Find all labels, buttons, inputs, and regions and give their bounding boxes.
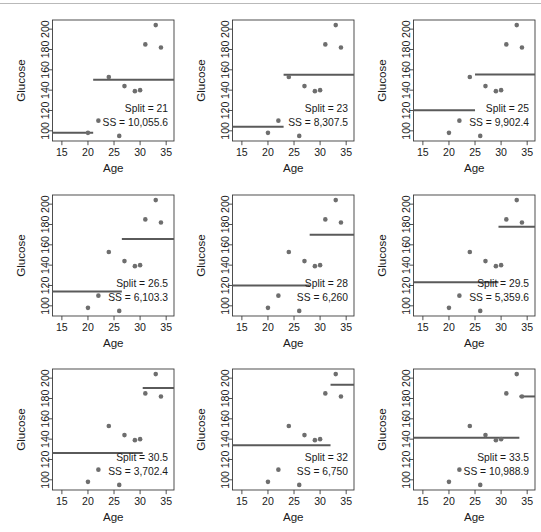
ss-annotation: SS = 9,902.4 (469, 117, 529, 128)
x-axis-title: Age (464, 162, 485, 174)
data-point (478, 134, 483, 139)
x-axis-title: Age (464, 337, 485, 349)
x-tick-label-35: 35 (341, 321, 353, 333)
x-tick-label-30: 30 (134, 146, 146, 158)
data-point (117, 134, 122, 139)
data-point (153, 372, 158, 377)
data-point (323, 217, 328, 222)
data-point (143, 391, 148, 396)
data-point (302, 258, 307, 263)
data-point (313, 263, 318, 268)
data-point (504, 217, 509, 222)
x-axis-title: Age (103, 162, 124, 174)
y-axis-title: Glucose (376, 408, 388, 450)
y-tick-label-200: 200 (400, 20, 412, 38)
data-point (86, 131, 91, 136)
y-tick-label-180: 180 (219, 41, 231, 59)
data-point (457, 293, 462, 298)
y-tick-label-100: 100 (400, 122, 412, 140)
ss-annotation: SS = 6,750 (297, 466, 348, 477)
y-tick-label-120: 120 (400, 276, 412, 294)
data-point (446, 131, 451, 136)
data-point (266, 480, 271, 485)
y-tick-label-180: 180 (400, 215, 412, 233)
y-tick-label-100: 100 (400, 296, 412, 314)
split-annotation: Split = 29.5 (477, 278, 529, 289)
y-tick-label-140: 140 (400, 81, 412, 99)
y-tick-label-200: 200 (39, 20, 51, 38)
scatter-panel-6: 1520253035100120140160180200AgeGlucoseSp… (361, 183, 541, 358)
x-tick-label-25: 25 (469, 496, 481, 508)
x-tick-label-20: 20 (443, 146, 455, 158)
x-tick-label-15: 15 (56, 321, 68, 333)
y-tick-label-160: 160 (39, 235, 51, 253)
y-axis-title: Glucose (16, 408, 28, 450)
y-tick-label-120: 120 (39, 451, 51, 469)
data-point (117, 483, 122, 488)
data-point (446, 480, 451, 485)
data-point (276, 468, 281, 473)
data-point (297, 308, 302, 313)
y-tick-label-120: 120 (400, 102, 412, 120)
scatter-panel-1: 1520253035100120140160180200AgeGlucoseSp… (0, 8, 180, 183)
x-tick-label-35: 35 (160, 321, 172, 333)
data-point (297, 134, 302, 139)
x-tick-label-20: 20 (82, 146, 94, 158)
panel-grid: 1520253035100120140160180200AgeGlucoseSp… (0, 8, 541, 532)
data-point (483, 433, 488, 438)
data-point (133, 89, 138, 94)
x-tick-label-30: 30 (495, 496, 507, 508)
y-tick-label-180: 180 (219, 390, 231, 408)
data-point (297, 483, 302, 488)
y-tick-label-200: 200 (219, 195, 231, 213)
data-point (287, 424, 292, 429)
data-point (266, 305, 271, 310)
x-tick-label-25: 25 (469, 321, 481, 333)
split-annotation: Split = 32 (305, 452, 348, 463)
ss-annotation: SS = 8,307.5 (289, 117, 349, 128)
x-axis-title: Age (283, 162, 304, 174)
x-tick-label-30: 30 (134, 496, 146, 508)
data-point (519, 394, 524, 399)
x-tick-label-30: 30 (315, 496, 327, 508)
y-tick-label-180: 180 (39, 41, 51, 59)
y-axis-title: Glucose (376, 59, 388, 101)
y-tick-label-160: 160 (400, 61, 412, 79)
y-tick-label-160: 160 (400, 235, 412, 253)
data-point (514, 197, 519, 202)
data-point (446, 305, 451, 310)
x-tick-label-25: 25 (288, 321, 300, 333)
data-point (483, 258, 488, 263)
x-axis-title: Age (283, 511, 304, 523)
x-tick-label-20: 20 (262, 321, 274, 333)
x-axis-title: Age (103, 511, 124, 523)
y-tick-label-100: 100 (39, 296, 51, 314)
x-tick-label-35: 35 (341, 496, 353, 508)
data-point (153, 197, 158, 202)
data-point (107, 75, 112, 80)
data-point (498, 262, 503, 267)
data-point (318, 437, 323, 442)
data-point (504, 391, 509, 396)
data-point (159, 220, 164, 225)
y-axis-title: Glucose (16, 59, 28, 101)
ss-annotation: SS = 6,260 (297, 292, 348, 303)
y-tick-label-180: 180 (219, 215, 231, 233)
x-axis-title: Age (103, 337, 124, 349)
data-point (498, 88, 503, 93)
scatter-panel-8: 1520253035100120140160180200AgeGlucoseSp… (180, 357, 360, 532)
x-tick-label-30: 30 (495, 146, 507, 158)
data-point (276, 293, 281, 298)
x-tick-label-25: 25 (288, 496, 300, 508)
data-point (323, 42, 328, 47)
split-annotation: Split = 25 (485, 103, 528, 114)
x-tick-label-25: 25 (288, 146, 300, 158)
data-point (334, 372, 339, 377)
data-point (519, 220, 524, 225)
y-axis-title: Glucose (376, 234, 388, 276)
y-tick-label-140: 140 (39, 430, 51, 448)
data-point (493, 263, 498, 268)
data-point (276, 118, 281, 123)
y-tick-label-120: 120 (39, 102, 51, 120)
x-tick-label-35: 35 (160, 146, 172, 158)
